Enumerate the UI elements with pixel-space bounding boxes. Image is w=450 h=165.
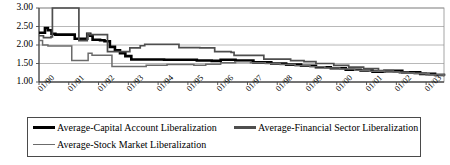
legend-item-stock-market: Average-Stock Market Liberalization xyxy=(33,139,206,150)
legend-label-stock-market: Average-Stock Market Liberalization xyxy=(57,139,206,150)
series-line-1 xyxy=(39,8,444,76)
data-series-layer xyxy=(39,8,444,76)
legend-label-financial-sector: Average-Financial Sector Liberalization xyxy=(258,122,418,133)
legend-swatch-stock-market-icon xyxy=(33,144,55,145)
legend-swatch-financial-sector-icon xyxy=(234,126,256,129)
legend-swatch-capital-account-icon xyxy=(33,126,55,129)
y-axis-tick-label: 1.00 xyxy=(0,77,33,87)
chart-figure: 3.002.502.001.501.00 01/9001/9101/9201/9… xyxy=(0,0,450,165)
y-axis-tick-label: 3.00 xyxy=(0,3,33,13)
legend-item-capital-account: Average-Capital Account Liberalization xyxy=(33,122,217,133)
y-axis-tick-label: 1.50 xyxy=(0,59,33,69)
plot-area: 3.002.502.001.501.00 01/9001/9101/9201/9… xyxy=(0,0,450,112)
y-axis-tick-label: 2.00 xyxy=(0,40,33,50)
chart-svg xyxy=(0,0,450,112)
series-line-2 xyxy=(39,41,444,77)
chart-legend: Average-Capital Account Liberalization A… xyxy=(27,117,421,157)
y-axis-tick-label: 2.50 xyxy=(0,22,33,32)
legend-item-financial-sector: Average-Financial Sector Liberalization xyxy=(234,122,418,133)
legend-label-capital-account: Average-Capital Account Liberalization xyxy=(57,122,217,133)
